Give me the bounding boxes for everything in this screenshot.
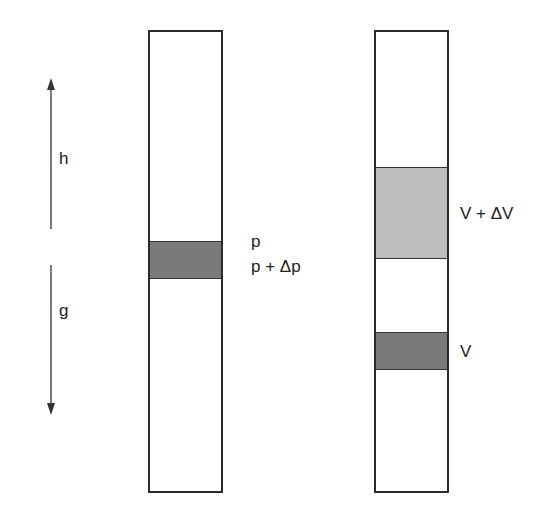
h-label: h	[59, 150, 68, 167]
expanded-volume-layer	[376, 167, 447, 259]
left-column	[148, 30, 223, 493]
volume-layer	[376, 332, 447, 370]
pressure-layer	[150, 241, 221, 279]
down-arrow-icon	[47, 265, 55, 415]
v-label: V	[460, 343, 471, 360]
g-label: g	[59, 302, 68, 319]
p-label: p	[251, 233, 260, 250]
v-plus-delta-v-label: V + ΔV	[460, 205, 513, 222]
up-arrow-icon	[47, 78, 55, 229]
p-plus-delta-p-label: p + Δp	[251, 258, 301, 275]
right-column	[374, 30, 449, 493]
